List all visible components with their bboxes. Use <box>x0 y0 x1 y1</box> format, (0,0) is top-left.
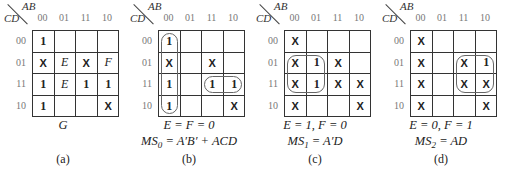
kmap-cell <box>454 31 476 53</box>
kmap-cell: X <box>350 74 372 96</box>
kmap-cell: X <box>476 96 498 118</box>
col-header: 00 <box>158 12 179 23</box>
col-header: 11 <box>75 12 96 23</box>
kmap-cell <box>433 53 455 75</box>
kmap-cell: X <box>33 53 55 75</box>
row-variable-label: CD <box>4 12 19 24</box>
kmap-cell <box>55 31 77 53</box>
kmap-cell <box>224 53 246 75</box>
kmap-cell <box>181 96 203 118</box>
grouping-loop <box>204 76 242 93</box>
figure-label: (d) <box>378 152 504 167</box>
kmap-cell: X <box>411 96 433 118</box>
row-header: 10 <box>384 100 404 111</box>
kmap-cell: 1 <box>98 74 120 96</box>
kmap-cell: 1 <box>33 96 55 118</box>
kmap-cell: F <box>98 53 120 75</box>
kmap-cell <box>328 31 350 53</box>
row-header: 11 <box>258 78 278 89</box>
kmap-d: ABCD0001111000011110XXX1XXXXXE = 0, F = … <box>378 0 504 177</box>
col-variable-label: AB <box>148 0 161 12</box>
col-header: 01 <box>180 12 201 23</box>
grouping-loop <box>456 55 494 93</box>
kmap-cell <box>433 31 455 53</box>
row-header: 10 <box>258 100 278 111</box>
kmap-cell <box>307 31 329 53</box>
kmap-cell <box>433 74 455 96</box>
row-header: 11 <box>6 78 26 89</box>
col-header: 10 <box>475 12 496 23</box>
row-header: 01 <box>258 57 278 68</box>
row-header: 00 <box>258 35 278 46</box>
col-header: 01 <box>306 12 327 23</box>
col-variable-label: AB <box>400 0 413 12</box>
kmap-cell: X <box>98 96 120 118</box>
kmap-cell <box>328 96 350 118</box>
caption-line-1: G <box>0 118 126 133</box>
figure-label: (a) <box>0 152 126 167</box>
kmap-cell: X <box>350 96 372 118</box>
col-header: 00 <box>32 12 53 23</box>
col-header: 10 <box>97 12 118 23</box>
kmap-cell: X <box>411 53 433 75</box>
kmap-cell: X <box>76 53 98 75</box>
caption-line-1: E = 1, F = 0 <box>252 118 378 133</box>
kmap-cell <box>202 96 224 118</box>
caption-line-2: MS0 = A′B′ + ACD <box>126 134 252 150</box>
kmap-cell: E <box>55 74 77 96</box>
kmap-c: ABCD0001111000011110XX1XX1XXXXE = 1, F =… <box>252 0 378 177</box>
col-header: 01 <box>432 12 453 23</box>
figure-label: (c) <box>252 152 378 167</box>
row-header: 11 <box>132 78 152 89</box>
caption-line-2: MS2 = AD <box>378 134 504 150</box>
kmap-cell <box>55 96 77 118</box>
row-header: 01 <box>384 57 404 68</box>
kmap-cell: X <box>328 74 350 96</box>
grouping-loop <box>287 55 325 93</box>
kmap-cell: X <box>411 74 433 96</box>
kmap-grid: 1XEXF1E111X <box>32 30 119 117</box>
kmap-cell <box>433 96 455 118</box>
kmap-cell <box>476 31 498 53</box>
kmap-cell: 1 <box>76 74 98 96</box>
kmap-cell <box>181 31 203 53</box>
col-variable-label: AB <box>22 0 35 12</box>
row-variable-label: CD <box>256 12 271 24</box>
kmap-cell <box>224 31 246 53</box>
kmap-cell <box>307 96 329 118</box>
kmap-cell: X <box>328 53 350 75</box>
row-header: 01 <box>132 57 152 68</box>
row-variable-label: CD <box>130 12 145 24</box>
kmap-cell <box>98 31 120 53</box>
kmap-cell <box>454 96 476 118</box>
kmap-cell <box>76 96 98 118</box>
row-header: 00 <box>6 35 26 46</box>
caption-line-1: E = F = 0 <box>126 118 252 133</box>
col-header: 11 <box>201 12 222 23</box>
grouping-loop <box>161 33 178 114</box>
col-header: 01 <box>54 12 75 23</box>
kmap-cell <box>202 31 224 53</box>
col-header: 10 <box>349 12 370 23</box>
kmap-cell <box>350 31 372 53</box>
row-header: 10 <box>6 100 26 111</box>
kmap-cell: 1 <box>33 31 55 53</box>
row-header: 00 <box>384 35 404 46</box>
col-variable-label: AB <box>274 0 287 12</box>
kmap-cell <box>76 31 98 53</box>
col-header: 10 <box>223 12 244 23</box>
kmap-cell: 1 <box>33 74 55 96</box>
kmap-cell: E <box>55 53 77 75</box>
row-header: 01 <box>6 57 26 68</box>
kmap-b: ABCD00011110000111101XX1111XE = F = 0MS0… <box>126 0 252 177</box>
row-header: 10 <box>132 100 152 111</box>
row-variable-label: CD <box>382 12 397 24</box>
kmap-cell <box>350 53 372 75</box>
col-header: 00 <box>410 12 431 23</box>
figure-label: (b) <box>126 152 252 167</box>
kmap-cell: X <box>224 96 246 118</box>
kmap-cell: X <box>202 53 224 75</box>
kmap-cell: X <box>285 31 307 53</box>
caption-line-1: E = 0, F = 1 <box>378 118 504 133</box>
row-header: 11 <box>384 78 404 89</box>
